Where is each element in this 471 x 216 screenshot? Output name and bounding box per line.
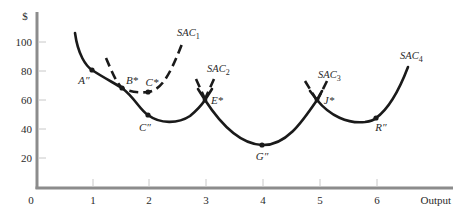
cost-curves-chart: $ 100 80 60 40 20 0 1 2 3 4 5 6 Output bbox=[0, 0, 471, 216]
sac4-label: SAC4 bbox=[400, 50, 423, 64]
x-tick-label-3: 3 bbox=[203, 194, 209, 206]
y-tick-label-20: 20 bbox=[21, 152, 33, 164]
x-tick-label-1: 1 bbox=[90, 194, 96, 206]
point-a bbox=[89, 67, 94, 72]
point-e bbox=[203, 98, 208, 103]
label-a: A″ bbox=[77, 74, 90, 86]
label-c: C″ bbox=[139, 121, 151, 133]
point-c bbox=[145, 112, 150, 117]
solid-curves bbox=[75, 33, 408, 145]
point-c-star bbox=[145, 89, 150, 94]
point-j bbox=[315, 98, 320, 103]
x-ticks bbox=[93, 179, 377, 187]
sac2-label: SAC2 bbox=[207, 63, 230, 77]
point-b bbox=[119, 85, 124, 90]
label-g: G″ bbox=[256, 150, 269, 162]
y-unit-label: $ bbox=[22, 10, 28, 22]
curve-labels: SAC1 SAC2 SAC3 SAC4 bbox=[177, 27, 423, 83]
y-tick-label-100: 100 bbox=[16, 36, 33, 48]
origin-label: 0 bbox=[28, 194, 34, 206]
label-b: B* bbox=[126, 74, 139, 86]
x-tick-label-5: 5 bbox=[317, 194, 323, 206]
y-tick-label-40: 40 bbox=[21, 123, 33, 135]
sac1-label: SAC1 bbox=[177, 27, 200, 41]
y-tick-label-80: 80 bbox=[21, 65, 33, 77]
y-tick-label-60: 60 bbox=[21, 94, 33, 106]
label-j: J* bbox=[324, 94, 335, 106]
x-axis-title: Output bbox=[420, 194, 451, 206]
label-c-star: C* bbox=[146, 76, 159, 88]
lac-segment-1 bbox=[75, 33, 212, 122]
x-tick-label-4: 4 bbox=[260, 194, 266, 206]
sac3-label: SAC3 bbox=[318, 69, 341, 83]
label-e: E* bbox=[210, 94, 224, 106]
point-r bbox=[373, 115, 378, 120]
y-ticks bbox=[38, 42, 46, 158]
label-r: R″ bbox=[374, 121, 387, 133]
x-tick-label-2: 2 bbox=[146, 194, 152, 206]
point-g bbox=[259, 142, 264, 147]
x-tick-label-6: 6 bbox=[374, 194, 380, 206]
